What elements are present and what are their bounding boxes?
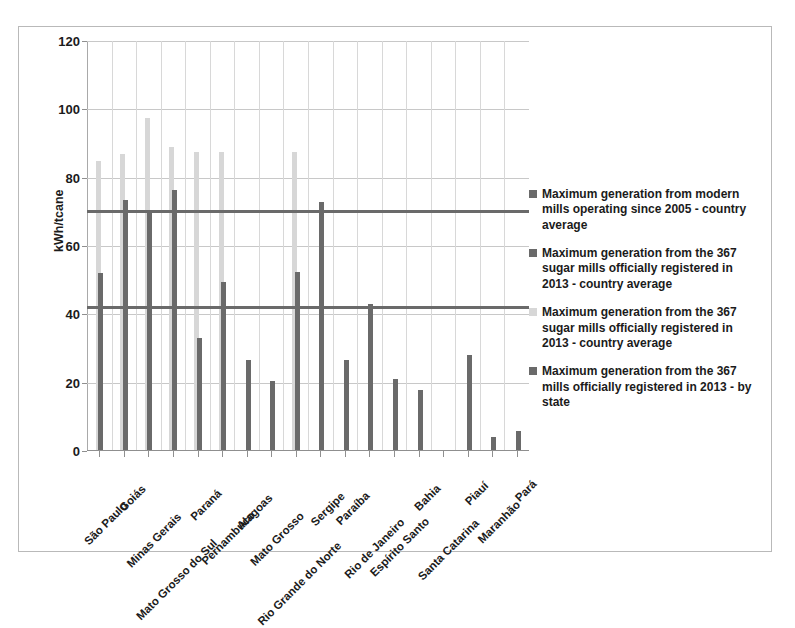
x-tick-mark [492, 451, 493, 457]
bar [295, 272, 300, 451]
y-tick-label: 20 [66, 375, 80, 390]
bar [246, 360, 251, 451]
legend-swatch-icon [529, 190, 537, 198]
y-axis-title: kWh/tcane [52, 189, 66, 252]
legend-entry[interactable]: Maximum generation from the 367 sugar mi… [529, 246, 759, 292]
y-tick-mark [82, 109, 87, 110]
plot-area: 020406080100120 São PauloGoiásMinas Gera… [87, 41, 529, 451]
bar [491, 437, 496, 451]
x-tick-mark [345, 451, 346, 457]
x-tick-mark [198, 451, 199, 457]
gridline-vertical [504, 41, 505, 451]
x-tick-mark [468, 451, 469, 457]
x-tick-mark [173, 451, 174, 457]
bar [319, 202, 324, 451]
y-tick-label: 40 [66, 307, 80, 322]
y-tick-mark [82, 41, 87, 42]
x-tick-mark [99, 451, 100, 457]
bar [123, 200, 128, 451]
bar [467, 355, 472, 451]
legend-swatch-icon [529, 308, 537, 316]
reference-line [87, 210, 529, 213]
gridline-vertical [210, 41, 211, 451]
legend-entry[interactable]: Maximum generation from modern mills ope… [529, 187, 759, 233]
gridline-vertical [406, 41, 407, 451]
y-tick-label: 120 [58, 34, 80, 49]
chart-legend: Maximum generation from modern mills ope… [529, 187, 759, 423]
y-tick-mark [82, 178, 87, 179]
bar [344, 360, 349, 451]
y-tick-label: 60 [66, 239, 80, 254]
gridline-vertical [136, 41, 137, 451]
bar [98, 273, 103, 451]
y-tick-mark [82, 451, 87, 452]
gridline-vertical [161, 41, 162, 451]
bar [172, 190, 177, 451]
legend-entry[interactable]: Maximum generation from the 367 mills of… [529, 364, 759, 410]
chart-figure: kWh/tcane 020406080100120 São PauloGoiás… [18, 26, 772, 552]
x-tick-mark [394, 451, 395, 457]
x-tick-label-text: Mato Grosso [248, 510, 306, 568]
gridline-vertical [234, 41, 235, 451]
legend-label: Maximum generation from the 367 sugar mi… [542, 246, 759, 292]
x-tick-mark [247, 451, 248, 457]
x-axis-line [87, 450, 529, 451]
x-tick-mark [296, 451, 297, 457]
gridline-vertical [185, 41, 186, 451]
gridline-vertical [308, 41, 309, 451]
gridline-vertical [259, 41, 260, 451]
x-tick-mark [148, 451, 149, 457]
legend-label: Maximum generation from the 367 sugar mi… [542, 305, 759, 351]
y-tick-mark [82, 246, 87, 247]
x-tick-mark [443, 451, 444, 457]
gridline-vertical [283, 41, 284, 451]
x-tick-mark [271, 451, 272, 457]
x-tick-mark [320, 451, 321, 457]
legend-entry[interactable]: Maximum generation from the 367 sugar mi… [529, 305, 759, 351]
x-tick-label-text: Minas Gerais [125, 511, 184, 570]
reference-line [87, 306, 529, 309]
legend-label: Maximum generation from the 367 mills of… [542, 364, 759, 410]
y-tick-label: 80 [66, 170, 80, 185]
y-tick-mark [82, 383, 87, 384]
x-tick-mark [124, 451, 125, 457]
y-tick-label: 100 [58, 102, 80, 117]
x-tick-mark [419, 451, 420, 457]
x-tick-mark [517, 451, 518, 457]
legend-label: Maximum generation from modern mills ope… [542, 187, 759, 233]
bar [368, 304, 373, 451]
gridline-vertical [480, 41, 481, 451]
bar [147, 212, 152, 451]
gridline-vertical [112, 41, 113, 451]
x-tick-mark [369, 451, 370, 457]
bar [418, 390, 423, 452]
gridline-vertical [357, 41, 358, 451]
gridline-vertical [431, 41, 432, 451]
legend-swatch-icon [529, 367, 537, 375]
gridline-vertical [382, 41, 383, 451]
y-tick-mark [82, 314, 87, 315]
bar [270, 381, 275, 451]
bar [393, 379, 398, 451]
y-tick-label: 0 [73, 444, 80, 459]
bar [197, 338, 202, 451]
gridline-vertical [455, 41, 456, 451]
gridline-vertical [333, 41, 334, 451]
legend-swatch-icon [529, 249, 537, 257]
bar [516, 431, 521, 452]
x-tick-mark [222, 451, 223, 457]
